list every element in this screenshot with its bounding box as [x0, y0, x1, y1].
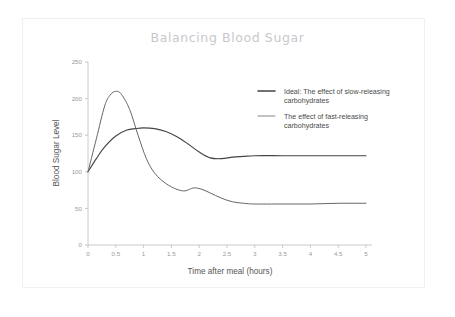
- series-line-fast-releasing: [88, 91, 366, 204]
- x-axis-title: Time after meal (hours): [188, 267, 273, 276]
- legend-label-slow-line2: carbohydrates: [284, 97, 329, 105]
- x-tick-label: 2.5: [223, 250, 232, 257]
- legend-label-slow-line1: Ideal: The effect of slow-releasing: [284, 88, 390, 96]
- x-tick-label: 0: [86, 250, 90, 257]
- chart-plot: 050100150200250 00.511.522.533.544.55 Bl…: [0, 0, 455, 317]
- y-tick-label: 250: [72, 58, 83, 65]
- y-tick-label: 0: [79, 241, 83, 248]
- x-tick-label: 4.5: [334, 250, 343, 257]
- chart-legend: Ideal: The effect of slow-releasing carb…: [258, 88, 390, 131]
- x-tick-label: 3.5: [278, 250, 287, 257]
- series-group: [88, 91, 366, 204]
- y-axis-ticks: 050100150200250: [72, 58, 88, 248]
- x-tick-label: 3: [253, 250, 257, 257]
- x-tick-label: 1.5: [167, 250, 176, 257]
- y-tick-label: 100: [72, 168, 83, 175]
- legend-label-fast-line2: carbohydrates: [284, 122, 329, 130]
- x-tick-label: 2: [197, 250, 201, 257]
- x-tick-label: 5: [364, 250, 368, 257]
- x-tick-label: 0.5: [111, 250, 120, 257]
- y-axis-title: Blood Sugar Level: [52, 119, 61, 186]
- x-axis-ticks: 00.511.522.533.544.55: [86, 245, 368, 257]
- legend-label-fast-line1: The effect of fast-releasing: [284, 113, 368, 121]
- series-line-slow-releasing: [88, 128, 366, 172]
- x-tick-label: 1: [142, 250, 146, 257]
- x-tick-label: 4: [309, 250, 313, 257]
- page-canvas: Balancing Blood Sugar 050100150200250 00…: [0, 0, 455, 317]
- y-tick-label: 50: [75, 205, 82, 212]
- y-tick-label: 150: [72, 131, 83, 138]
- y-tick-label: 200: [72, 95, 83, 102]
